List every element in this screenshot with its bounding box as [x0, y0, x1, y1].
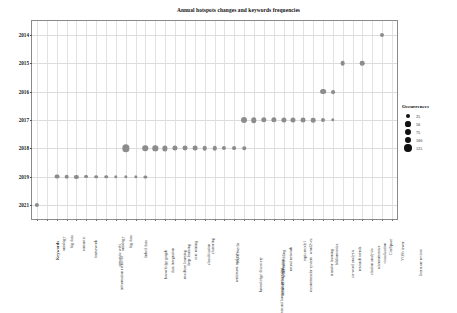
data-point — [192, 146, 197, 151]
data-point — [271, 117, 276, 122]
x-axis-label: ontology — [61, 237, 65, 252]
legend-entry: 125 — [402, 144, 457, 152]
y-axis-label: 2019 — [19, 174, 29, 180]
x-axis-tick — [215, 219, 216, 221]
data-point — [320, 89, 326, 95]
data-point — [134, 175, 137, 178]
x-axis-label: framework — [94, 240, 98, 258]
data-point — [222, 146, 226, 150]
data-point — [124, 175, 127, 178]
y-axis-tick — [30, 148, 33, 149]
legend-entry: 50 — [402, 120, 457, 128]
data-point — [331, 118, 334, 121]
x-axis-tick — [96, 219, 97, 221]
y-axis-tick — [30, 63, 33, 64]
data-point — [172, 146, 177, 151]
x-axis-tick — [264, 219, 265, 221]
data-point — [202, 146, 207, 151]
x-axis-label: literature review — [419, 249, 423, 276]
legend-swatch — [402, 137, 414, 144]
data-point — [380, 33, 384, 37]
x-axis-label: recommender system — [309, 257, 313, 292]
data-point — [122, 145, 129, 152]
y-axis-tick — [30, 205, 33, 206]
legend-label: 25 — [416, 114, 420, 119]
legend-dot-icon — [405, 137, 412, 144]
x-axis-tick — [57, 219, 58, 221]
legend-swatch — [402, 121, 414, 126]
x-axis-label: deep learning — [187, 244, 191, 266]
data-point — [242, 147, 245, 150]
y-axis-label: 2015 — [19, 60, 29, 66]
y-axis-label: 2016 — [19, 89, 29, 95]
data-point — [291, 117, 296, 122]
legend-dot-icon — [405, 121, 410, 126]
y-axis-tick — [30, 177, 33, 178]
x-axis-label: research trends — [358, 247, 362, 272]
x-axis-label: big data — [129, 235, 133, 248]
legend: Occurrences 255075100125 — [402, 104, 457, 152]
x-axis-tick — [323, 219, 324, 221]
y-axis-tick — [30, 35, 33, 36]
data-point — [251, 117, 257, 123]
legend-label: 100 — [416, 138, 422, 143]
x-axis-tick — [353, 219, 354, 221]
plot-area: Keywordsontologybig datasemanticframewor… — [31, 20, 398, 220]
data-point — [301, 118, 306, 123]
legend-label: 75 — [416, 130, 420, 135]
x-axis-label: linked data — [144, 240, 148, 258]
x-axis-label: big data — [70, 235, 74, 248]
x-axis-label: social media — [235, 243, 239, 264]
x-axis-tick — [126, 219, 127, 221]
data-point — [94, 175, 98, 179]
x-axis-tick — [106, 219, 107, 221]
legend-swatch — [402, 129, 414, 135]
x-axis-tick — [244, 219, 245, 221]
x-axis-label: semantic — [81, 237, 85, 252]
x-axis-label: knowledge discovery — [259, 257, 263, 292]
x-axis-tick — [333, 219, 334, 221]
x-axis-label: knowledge graph — [164, 250, 168, 278]
data-point — [104, 175, 108, 179]
legend-entry: 75 — [402, 128, 457, 136]
data-point — [54, 174, 59, 179]
data-point — [232, 146, 236, 150]
x-axis-tick — [136, 219, 137, 221]
x-axis-tick — [76, 219, 77, 221]
x-axis-label: clustering — [211, 238, 215, 254]
x-axis-tick — [195, 219, 196, 221]
data-point — [281, 117, 286, 122]
y-axis-label: 2014 — [19, 32, 29, 38]
x-axis-tick — [274, 219, 275, 221]
x-axis-label: topic model — [303, 241, 307, 260]
x-axis-tick — [293, 219, 294, 221]
legend-dot-icon — [406, 114, 410, 118]
x-axis-tick — [37, 219, 38, 221]
y-axis-label: 2018 — [19, 145, 29, 151]
legend-swatch — [402, 114, 414, 118]
x-axis-tick — [372, 219, 373, 221]
x-axis-tick — [86, 219, 87, 221]
x-axis-label: word2vec — [310, 238, 314, 254]
data-point — [64, 174, 69, 179]
legend-entry-list: 255075100125 — [402, 112, 457, 152]
legend-entry: 100 — [402, 136, 457, 144]
x-axis-label: text mining — [194, 241, 198, 260]
x-axis-tick — [47, 219, 48, 221]
data-point — [241, 117, 247, 123]
x-axis-label: word embedding — [282, 250, 286, 278]
data-point — [212, 146, 216, 150]
legend-label: 125 — [416, 146, 422, 151]
x-axis-tick — [343, 219, 344, 221]
data-point — [84, 175, 88, 179]
x-axis-tick — [205, 219, 206, 221]
x-axis-label: co-word analysis — [351, 250, 355, 278]
x-axis-tick — [116, 219, 117, 221]
data-point — [311, 118, 316, 123]
x-axis-label: neural network — [288, 247, 292, 272]
x-axis-label: bibliometrics — [335, 244, 339, 266]
y-axis-tick — [30, 120, 33, 121]
x-axis-label: citation analysis — [369, 249, 373, 276]
legend-swatch — [402, 144, 414, 151]
